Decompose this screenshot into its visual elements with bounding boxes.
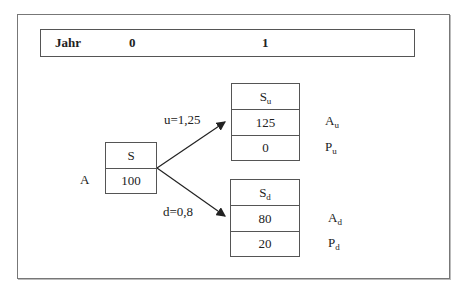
up-stock-label: Au [325, 113, 339, 129]
down-stock-value: 80 [231, 205, 299, 231]
down-node-box: Sd 80 20 [230, 179, 300, 257]
up-factor-label: u=1,25 [164, 112, 201, 128]
up-node-title: Su [232, 84, 299, 109]
state-a-label: A [80, 172, 89, 188]
down-put-label: Pd [328, 235, 340, 251]
up-node-box: Su 125 0 [231, 83, 300, 161]
up-put-value: 0 [232, 135, 299, 160]
root-node-box: S 100 [105, 142, 157, 194]
down-stock-label: Ad [328, 210, 342, 226]
up-put-label: Pu [325, 139, 337, 155]
up-arrow [157, 122, 225, 168]
up-stock-value: 125 [232, 109, 299, 135]
down-factor-label: d=0,8 [163, 204, 193, 220]
root-value: 100 [106, 168, 156, 193]
root-title: S [106, 143, 156, 168]
down-node-title: Sd [231, 180, 299, 205]
down-put-value: 20 [231, 231, 299, 256]
